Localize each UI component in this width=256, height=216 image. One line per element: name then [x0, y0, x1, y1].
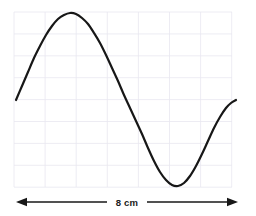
figure-background: [0, 0, 256, 216]
wavelength-figure: 8 cm: [0, 0, 256, 216]
wavelength-dimension-label: 8 cm: [114, 197, 140, 208]
figure-canvas: [0, 0, 256, 216]
